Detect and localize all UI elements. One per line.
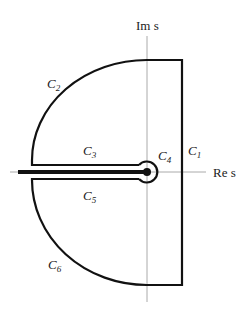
real-axis-label: Re s: [213, 165, 236, 180]
label-c1: C1: [188, 143, 201, 160]
label-c4: C4: [158, 148, 172, 165]
contour-diagram: Im s Re s C2 C3 C4 C1 C5 C6: [0, 0, 248, 311]
imaginary-axis-label: Im s: [136, 18, 159, 33]
label-c6: C6: [48, 257, 62, 274]
label-c3: C3: [83, 143, 97, 160]
origin-pole-dot: [143, 168, 151, 176]
label-c5: C5: [83, 188, 97, 205]
label-c2: C2: [47, 76, 61, 93]
